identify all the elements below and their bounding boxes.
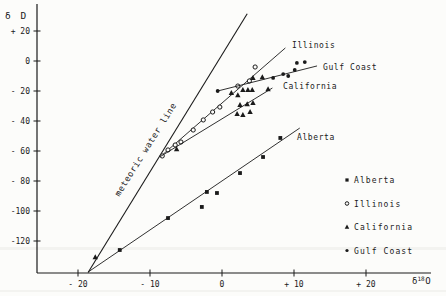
circle-marker [293, 68, 297, 72]
legend-label: Gulf Coast [354, 247, 413, 256]
open-circle-marker [191, 128, 195, 132]
y-tick-label: 0 [25, 57, 30, 66]
triangle-marker [250, 87, 255, 92]
x-tick-label: - 10 [140, 280, 159, 289]
y-axis-title: δ D [5, 10, 28, 21]
circle-marker [216, 89, 220, 93]
plot-label-california: California [283, 82, 337, 91]
legend-item-california: California [345, 223, 413, 232]
open-circle-marker [211, 110, 215, 114]
circle-marker [281, 72, 285, 76]
legend-label: California [354, 223, 413, 232]
x-tick-label: - 20 [68, 280, 87, 289]
x-tick-label: + 10 [284, 280, 303, 289]
triangle-marker [345, 225, 350, 229]
triangle-marker [245, 87, 250, 92]
triangle-marker [235, 92, 240, 97]
meteoric-water-line: meteoric water line [88, 14, 247, 273]
meteoric-water-line-path [88, 14, 247, 273]
triangle-marker [93, 254, 98, 259]
triangle-marker [237, 102, 242, 107]
y-ticks: + 200- 20- 40- 60- 80-100-120 [11, 27, 41, 246]
square-marker [261, 155, 265, 159]
legend-item-alberta: Alberta [345, 176, 395, 185]
square-marker [166, 216, 170, 220]
square-marker [205, 190, 209, 194]
circle-marker [286, 74, 290, 78]
axes [37, 4, 431, 273]
triangle-marker [240, 87, 245, 92]
square-marker [118, 248, 122, 252]
series-alberta: Alberta [88, 128, 335, 272]
y-tick-label: -120 [11, 237, 30, 246]
triangle-marker [260, 74, 265, 79]
plot-label-gulf-coast: Gulf Coast [323, 63, 377, 72]
circle-marker [271, 76, 275, 80]
legend-item-gulf-coast: Gulf Coast [345, 247, 413, 256]
y-tick-label: + 20 [11, 27, 30, 36]
x-axis-title: δ18O [412, 275, 431, 287]
triangle-marker [234, 111, 239, 116]
x-tick-label: 0 [220, 280, 225, 289]
y-tick-label: -100 [11, 207, 30, 216]
triangle-marker [240, 112, 245, 117]
circle-marker [303, 60, 307, 64]
circle-marker [345, 249, 348, 252]
square-marker [345, 178, 348, 181]
triangle-marker [229, 90, 234, 95]
scatter-plot-canvas: + 200- 20- 40- 60- 80-100-120- 20- 100+ … [0, 0, 446, 296]
x-tick-label: + 20 [356, 280, 375, 289]
plot-label-illinois: Illinois [292, 41, 335, 50]
isotope-brine-plot: + 200- 20- 40- 60- 80-100-120- 20- 100+ … [0, 0, 446, 296]
y-tick-label: - 60 [11, 147, 30, 156]
legend-label: Alberta [354, 176, 395, 185]
california-trend-line [161, 88, 273, 156]
legend-item-illinois: Illinois [345, 200, 401, 209]
open-circle-marker [345, 202, 349, 206]
open-circle-marker [253, 65, 257, 69]
square-marker [200, 205, 204, 209]
square-marker [238, 171, 242, 175]
plot-label-alberta: Alberta [297, 133, 335, 142]
legend: AlbertaIllinoisCaliforniaGulf Coast [345, 176, 413, 256]
legend-label: Illinois [354, 200, 401, 209]
circle-marker [295, 61, 299, 65]
y-tick-label: - 80 [11, 177, 30, 186]
square-marker [215, 191, 219, 195]
triangle-marker [265, 86, 270, 91]
square-marker [278, 136, 282, 140]
axis-titles: δ Dδ18O [5, 10, 431, 286]
y-tick-label: - 20 [11, 87, 30, 96]
open-circle-marker [218, 105, 222, 109]
open-circle-marker [201, 118, 205, 122]
triangle-marker [247, 109, 252, 114]
y-tick-label: - 40 [11, 117, 30, 126]
